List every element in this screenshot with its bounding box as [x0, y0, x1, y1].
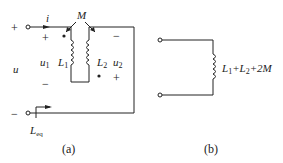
plus-terminal-label: +: [11, 21, 18, 35]
dot-L1: [62, 34, 65, 37]
caption-a: (a): [62, 142, 75, 156]
circuit-diagram: + − i M u + − u1 L1 L2 u2 − + Leq (a) L1…: [0, 0, 283, 163]
u1-label: u1: [40, 56, 50, 70]
terminal-top-a: [26, 25, 30, 29]
mutual-label: M: [76, 9, 87, 21]
L1-label: L1: [57, 56, 68, 70]
minus-terminal-label: −: [11, 107, 18, 121]
Leq-label: Leq: [29, 124, 43, 138]
L2-label: L2: [96, 56, 107, 70]
inductor-L1: [71, 40, 74, 65]
inductor-Leq: [213, 54, 216, 79]
current-label: i: [46, 12, 49, 24]
terminal-top-b: [158, 38, 162, 42]
inductor-L2: [87, 40, 90, 65]
terminal-bottom-b: [158, 93, 162, 97]
u2-label: u2: [113, 56, 123, 70]
u2-minus: −: [113, 29, 120, 43]
equivalent-inductance-label: L1+L2+2M: [221, 62, 273, 76]
dot-L2: [97, 74, 100, 77]
u2-plus: +: [113, 71, 120, 85]
u1-minus: −: [42, 77, 49, 91]
voltage-label: u: [13, 63, 19, 75]
arrowhead-icon: [45, 105, 52, 109]
u1-plus: +: [42, 31, 49, 45]
current-arrow-icon: [43, 25, 50, 29]
terminal-bottom-a: [26, 111, 30, 115]
caption-b: (b): [204, 142, 218, 156]
